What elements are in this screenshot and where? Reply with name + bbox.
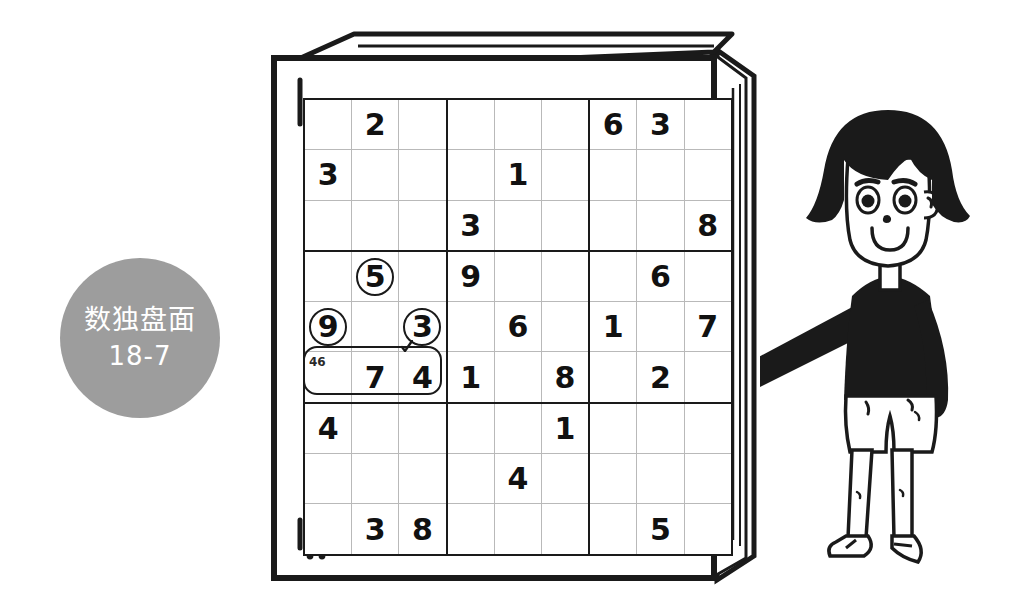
girl-illustration: [760, 100, 1010, 580]
sudoku-cell-r1c8[interactable]: 3: [637, 99, 684, 150]
sudoku-cell-r2c1[interactable]: 3: [304, 150, 352, 200]
sudoku-cell-r4c8[interactable]: 6: [637, 251, 684, 302]
sudoku-cell-r5c9[interactable]: 7: [684, 302, 732, 352]
cell-value: 8: [555, 360, 576, 395]
cell-value: 4: [412, 360, 433, 395]
sudoku-cell-r5c2[interactable]: [352, 302, 399, 352]
sudoku-cell-r6c5[interactable]: [494, 352, 541, 403]
sudoku-cell-r9c5[interactable]: [494, 504, 541, 555]
sudoku-row: 93617: [304, 302, 732, 352]
sudoku-cell-r6c7[interactable]: [589, 352, 637, 403]
badge-subtitle: 18-7: [108, 341, 171, 371]
sudoku-cell-r6c4[interactable]: 1: [447, 352, 495, 403]
sudoku-cell-r9c3[interactable]: 8: [399, 504, 447, 555]
cell-value: 1: [603, 309, 624, 344]
sudoku-cell-r8c3[interactable]: [399, 454, 447, 504]
sudoku-cell-r1c4[interactable]: [447, 99, 495, 150]
sudoku-cell-r8c4[interactable]: [447, 454, 495, 504]
sudoku-cell-r8c5[interactable]: 4: [494, 454, 541, 504]
sudoku-cell-r6c2[interactable]: 7: [352, 352, 399, 403]
sudoku-cell-r7c3[interactable]: [399, 403, 447, 454]
cell-value: 3: [318, 157, 339, 192]
cell-value: 7: [697, 309, 718, 344]
sudoku-cell-r9c8[interactable]: 5: [637, 504, 684, 555]
sudoku-cell-r8c9[interactable]: [684, 454, 732, 504]
sudoku-row: 4: [304, 454, 732, 504]
sudoku-table[interactable]: 2633138596936174674182414385: [303, 98, 733, 556]
sudoku-cell-r7c1[interactable]: 4: [304, 403, 352, 454]
sudoku-cell-r1c2[interactable]: 2: [352, 99, 399, 150]
sudoku-cell-r7c9[interactable]: [684, 403, 732, 454]
sudoku-cell-r4c4[interactable]: 9: [447, 251, 495, 302]
sudoku-cell-r7c5[interactable]: [494, 403, 541, 454]
cell-value: 8: [697, 208, 718, 243]
sudoku-cell-r2c6[interactable]: [541, 150, 589, 200]
sudoku-cell-r1c9[interactable]: [684, 99, 732, 150]
sudoku-cell-r3c3[interactable]: [399, 200, 447, 251]
sudoku-cell-r9c6[interactable]: [541, 504, 589, 555]
sudoku-cell-r2c4[interactable]: [447, 150, 495, 200]
sudoku-row: 41: [304, 403, 732, 454]
sudoku-cell-r1c1[interactable]: [304, 99, 352, 150]
sudoku-cell-r2c2[interactable]: [352, 150, 399, 200]
sudoku-cell-r7c4[interactable]: [447, 403, 495, 454]
sudoku-cell-r6c1[interactable]: 46: [304, 352, 352, 403]
sudoku-cell-r5c5[interactable]: 6: [494, 302, 541, 352]
sudoku-cell-r1c3[interactable]: [399, 99, 447, 150]
cell-value: 3: [365, 512, 386, 547]
sudoku-cell-r6c6[interactable]: 8: [541, 352, 589, 403]
sudoku-cell-r6c8[interactable]: 2: [637, 352, 684, 403]
check-tick-icon: [401, 340, 413, 352]
sudoku-cell-r7c8[interactable]: [637, 403, 684, 454]
sudoku-cell-r3c4[interactable]: 3: [447, 200, 495, 251]
sudoku-cell-r3c9[interactable]: 8: [684, 200, 732, 251]
sudoku-cell-r5c8[interactable]: [637, 302, 684, 352]
sudoku-cell-r3c6[interactable]: [541, 200, 589, 251]
sudoku-cell-r1c6[interactable]: [541, 99, 589, 150]
sudoku-cell-r2c5[interactable]: 1: [494, 150, 541, 200]
cell-value: 9: [309, 308, 347, 346]
sudoku-cell-r5c4[interactable]: [447, 302, 495, 352]
sudoku-cell-r5c1[interactable]: 9: [304, 302, 352, 352]
sudoku-cell-r7c2[interactable]: [352, 403, 399, 454]
sudoku-cell-r8c6[interactable]: [541, 454, 589, 504]
sudoku-cell-r7c7[interactable]: [589, 403, 637, 454]
sudoku-cell-r6c3[interactable]: 4: [399, 352, 447, 403]
sudoku-cell-r1c7[interactable]: 6: [589, 99, 637, 150]
sudoku-cell-r3c1[interactable]: [304, 200, 352, 251]
sudoku-cell-r9c1[interactable]: [304, 504, 352, 555]
sudoku-cell-r2c3[interactable]: [399, 150, 447, 200]
sudoku-cell-r8c2[interactable]: [352, 454, 399, 504]
sudoku-cell-r2c9[interactable]: [684, 150, 732, 200]
sudoku-cell-r9c4[interactable]: [447, 504, 495, 555]
sudoku-cell-r4c3[interactable]: [399, 251, 447, 302]
sudoku-cell-r6c9[interactable]: [684, 352, 732, 403]
sudoku-cell-r2c8[interactable]: [637, 150, 684, 200]
sudoku-cell-r9c9[interactable]: [684, 504, 732, 555]
sudoku-row: 263: [304, 99, 732, 150]
sudoku-cell-r9c2[interactable]: 3: [352, 504, 399, 555]
sudoku-cell-r8c8[interactable]: [637, 454, 684, 504]
sudoku-cell-r3c8[interactable]: [637, 200, 684, 251]
sudoku-cell-r8c7[interactable]: [589, 454, 637, 504]
cell-value: 7: [365, 360, 386, 395]
sudoku-cell-r4c6[interactable]: [541, 251, 589, 302]
sudoku-cell-r2c7[interactable]: [589, 150, 637, 200]
sudoku-cell-r1c5[interactable]: [494, 99, 541, 150]
sudoku-cell-r3c5[interactable]: [494, 200, 541, 251]
sudoku-cell-r7c6[interactable]: 1: [541, 403, 589, 454]
sudoku-cell-r4c7[interactable]: [589, 251, 637, 302]
sudoku-cell-r3c2[interactable]: [352, 200, 399, 251]
sudoku-cell-r5c6[interactable]: [541, 302, 589, 352]
sudoku-cell-r4c9[interactable]: [684, 251, 732, 302]
sudoku-cell-r8c1[interactable]: [304, 454, 352, 504]
sudoku-cell-r4c1[interactable]: [304, 251, 352, 302]
sudoku-cell-r4c2[interactable]: 5: [352, 251, 399, 302]
sudoku-grid[interactable]: 2633138596936174674182414385: [303, 98, 719, 542]
sudoku-cell-r9c7[interactable]: [589, 504, 637, 555]
sudoku-cell-r4c5[interactable]: [494, 251, 541, 302]
cell-value: 1: [460, 360, 481, 395]
cell-value: 8: [412, 512, 433, 547]
sudoku-cell-r3c7[interactable]: [589, 200, 637, 251]
sudoku-cell-r5c7[interactable]: 1: [589, 302, 637, 352]
